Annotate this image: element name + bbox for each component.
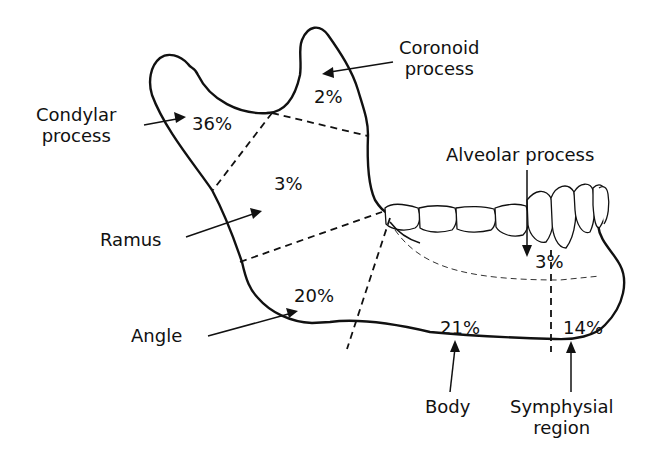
label-coronoid-line1: Coronoid bbox=[399, 37, 479, 58]
border-ramus-angle bbox=[240, 212, 382, 262]
border-angle-body bbox=[347, 218, 390, 349]
label-angle: Angle bbox=[131, 325, 182, 346]
label-alveolar-process: Alveolar process bbox=[446, 144, 594, 165]
percent-alveolar: 3% bbox=[535, 251, 564, 272]
label-condylar-process: Condylar process bbox=[36, 104, 117, 146]
percent-body: 21% bbox=[440, 317, 480, 338]
label-coronoid-line2: process bbox=[399, 58, 479, 79]
border-coronoid-ramus bbox=[272, 113, 368, 136]
label-symphysial-region: Symphysial region bbox=[510, 396, 614, 438]
label-body: Body bbox=[425, 396, 470, 417]
percent-condylar: 36% bbox=[192, 113, 232, 134]
percent-coronoid: 2% bbox=[314, 86, 343, 107]
percent-symphysial: 14% bbox=[563, 317, 603, 338]
label-ramus: Ramus bbox=[100, 229, 161, 250]
teeth bbox=[385, 184, 609, 248]
label-symphysial-line2: region bbox=[510, 417, 614, 438]
label-symphysial-line1: Symphysial bbox=[510, 396, 614, 417]
label-condylar-line1: Condylar bbox=[36, 104, 117, 125]
label-condylar-line2: process bbox=[36, 125, 117, 146]
percent-ramus: 3% bbox=[274, 173, 303, 194]
percent-angle: 20% bbox=[294, 285, 334, 306]
label-coronoid-process: Coronoid process bbox=[399, 37, 479, 79]
mandible-fracture-diagram: Condylar process 36% Coronoid process 2%… bbox=[0, 0, 667, 457]
